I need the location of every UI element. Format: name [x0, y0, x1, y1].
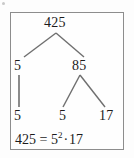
scan-artifact-speck	[2, 2, 5, 5]
tree-node-level2-left: 5	[14, 109, 21, 123]
factorization-equation: 425 = 52·17	[15, 131, 83, 147]
tree-node-level2-middle: 5	[59, 109, 66, 123]
tree-node-level1-right: 85	[72, 59, 86, 73]
tree-node-level1-left: 5	[14, 59, 21, 73]
branch-root-to-left	[24, 33, 56, 57]
figure-frame: 425 5 85 5 5 17 425 = 52·17	[10, 12, 124, 150]
tree-node-root: 425	[44, 16, 66, 30]
factor-tree-screenshot: 425 5 85 5 5 17 425 = 52·17	[0, 0, 134, 158]
branch-85-to-right	[80, 75, 105, 107]
branch-root-to-right	[56, 33, 84, 57]
branch-85-to-left	[63, 75, 80, 107]
tree-node-level2-right: 17	[99, 109, 113, 123]
equation-base: 5	[51, 132, 58, 147]
equation-left-number: 425	[15, 132, 36, 147]
equation-equals-sign: =	[40, 132, 48, 147]
equation-factor: 17	[69, 132, 83, 147]
